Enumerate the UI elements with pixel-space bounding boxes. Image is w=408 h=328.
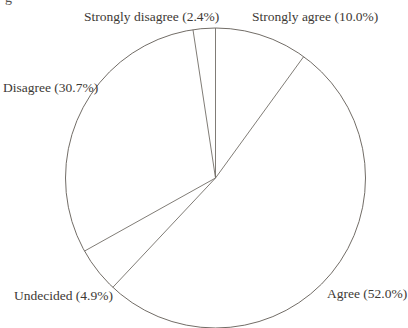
pie-label-agree: Agree (52.0%) (327, 286, 407, 301)
pie-label-strongly-agree: Strongly agree (10.0%) (252, 9, 378, 24)
pie-chart (0, 0, 408, 328)
pie-label-disagree: Disagree (30.7%) (3, 80, 98, 95)
pie-chart-figure: g Strongly disagree (2.4%) Disagree (30.… (0, 0, 408, 328)
pie-label-undecided: Undecided (4.9%) (14, 288, 113, 303)
pie-label-strongly-disagree: Strongly disagree (2.4%) (84, 9, 219, 24)
